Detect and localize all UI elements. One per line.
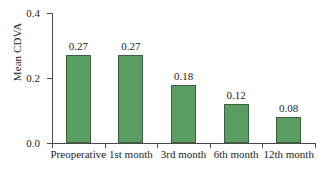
bar-chart: Mean CDVA 0.00.20.4 0.270.270.180.120.08… (0, 0, 328, 176)
bar (276, 117, 301, 143)
bar (171, 85, 196, 144)
bar (118, 55, 143, 143)
bar-value-label: 0.27 (111, 41, 151, 52)
y-axis-tick-label: 0.2 (14, 73, 40, 84)
bar-value-label: 0.12 (216, 90, 256, 101)
x-axis-line (52, 143, 316, 144)
plot-area: 0.270.270.180.120.08 (52, 13, 315, 143)
bar-value-label: 0.08 (269, 103, 309, 114)
y-axis-tick-label: 0.4 (14, 8, 40, 19)
bar-value-label: 0.18 (164, 71, 204, 82)
bar (224, 104, 249, 143)
bar (66, 55, 91, 143)
y-axis-tick-label: 0.0 (14, 138, 40, 149)
bar-value-label: 0.27 (58, 41, 98, 52)
x-axis-tick-label: 12th month (249, 148, 328, 160)
